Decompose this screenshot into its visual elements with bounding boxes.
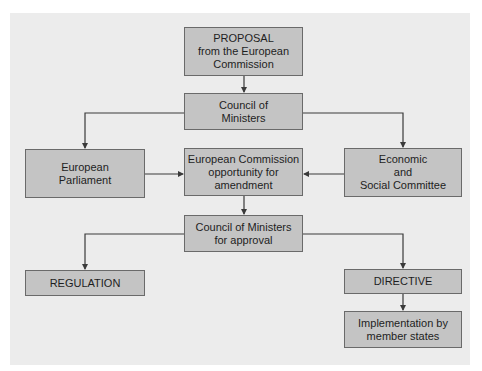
node-proposal: PROPOSAL from the European Commission xyxy=(184,27,303,76)
node-council-line-2: Ministers xyxy=(219,112,268,125)
node-proposal-line-3: Commission xyxy=(198,58,289,71)
node-approval-line-1: Council of Ministers xyxy=(196,221,292,234)
node-proposal-line-1: PROPOSAL xyxy=(198,32,289,45)
arrow-approval-to-directive xyxy=(303,234,403,268)
arrow-council-to-parliament xyxy=(85,113,184,148)
node-directive: DIRECTIVE xyxy=(344,269,462,294)
arrow-council-to-esc xyxy=(303,113,403,147)
node-amendment: European Commission opportunity for amen… xyxy=(184,148,303,196)
node-parliament-line-1: European xyxy=(59,161,112,174)
node-proposal-line-2: from the European xyxy=(198,45,289,58)
arrow-approval-to-regulation xyxy=(85,234,184,269)
node-amendment-line-2: opportunity for xyxy=(188,166,299,179)
node-esc-line-1: Economic xyxy=(360,153,446,166)
node-parliament-line-2: Parliament xyxy=(59,174,112,187)
node-council-line-1: Council of xyxy=(219,99,268,112)
node-directive-label: DIRECTIVE xyxy=(374,275,433,288)
node-implementation-line-2: member states xyxy=(358,330,448,343)
node-amendment-line-3: amendment xyxy=(188,179,299,192)
node-amendment-line-1: European Commission xyxy=(188,153,299,166)
node-parliament: European Parliament xyxy=(25,149,145,198)
node-approval-line-2: for approval xyxy=(196,234,292,247)
node-council: Council of Ministers xyxy=(184,93,303,130)
node-esc: Economic and Social Committee xyxy=(344,148,462,197)
node-regulation: REGULATION xyxy=(25,270,145,296)
node-implementation: Implementation by member states xyxy=(344,311,462,348)
node-approval: Council of Ministers for approval xyxy=(184,215,303,252)
node-regulation-label: REGULATION xyxy=(50,277,121,290)
node-implementation-line-1: Implementation by xyxy=(358,317,448,330)
node-esc-line-3: Social Committee xyxy=(360,179,446,192)
node-esc-line-2: and xyxy=(360,166,446,179)
